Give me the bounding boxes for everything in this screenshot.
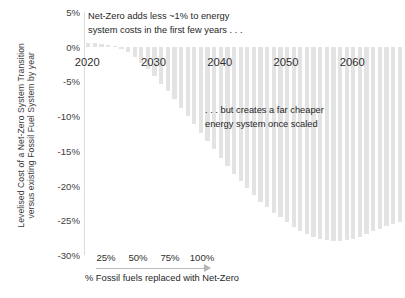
- secondary-axis-tick-label: 25%: [96, 252, 115, 263]
- y-axis-title-line-2: versus existing Fossil Fuel System by ye…: [27, 52, 36, 219]
- y-axis-tick-label: 5%: [50, 7, 80, 18]
- bar: [364, 47, 368, 234]
- bar: [378, 47, 382, 229]
- bar: [285, 47, 289, 223]
- y-axis-title: Levelised Cost of a Net-Zero System Tran…: [0, 0, 52, 270]
- chart-figure: Levelised Cost of a Net-Zero System Tran…: [0, 0, 405, 298]
- plot-area: [84, 12, 402, 255]
- bar: [311, 47, 315, 237]
- bar: [325, 47, 329, 241]
- bar: [371, 47, 375, 232]
- bar: [351, 47, 355, 239]
- right-arrow-icon: [204, 264, 211, 272]
- bar: [172, 47, 176, 100]
- x-axis-ticks: 20202030204020502060: [84, 56, 402, 72]
- secondary-axis: 25%50%75%100% % Fossil fuels replaced wi…: [84, 252, 314, 296]
- bar-series: [85, 12, 402, 255]
- secondary-axis-title: % Fossil fuels replaced with Net-Zero: [85, 273, 239, 283]
- y-axis-title-line-1: Levelised Cost of a Net-Zero System Tran…: [17, 43, 26, 228]
- y-axis-tick-label: -30%: [50, 250, 80, 261]
- bar: [126, 47, 130, 53]
- bar: [278, 47, 282, 218]
- bar: [398, 47, 402, 222]
- y-axis-tick-label: -10%: [50, 111, 80, 122]
- bar: [292, 47, 296, 227]
- bar: [338, 47, 342, 241]
- bar: [318, 47, 322, 239]
- top-annotation-line-1: Net-Zero adds less ~1% to energy: [88, 10, 242, 24]
- bar: [345, 47, 349, 241]
- mid-annotation: . . . but creates a far cheaper energy s…: [205, 104, 324, 131]
- bar: [331, 47, 335, 241]
- bar: [113, 46, 117, 47]
- bar: [305, 47, 309, 234]
- secondary-axis-line: [96, 268, 204, 269]
- bar: [298, 47, 302, 231]
- x-axis-tick-label: 2050: [274, 56, 299, 68]
- x-axis-tick-label: 2030: [141, 56, 166, 68]
- bar: [391, 47, 395, 224]
- bar: [384, 47, 388, 226]
- bar: [106, 45, 110, 47]
- top-annotation: Net-Zero adds less ~1% to energy system …: [88, 10, 242, 37]
- y-axis-tick-label: -25%: [50, 215, 80, 226]
- secondary-axis-tick-label: 75%: [160, 252, 179, 263]
- y-axis-tick-label: -5%: [50, 76, 80, 87]
- bar: [86, 43, 90, 47]
- y-axis-ticks: 5%0%-5%-10%-15%-20%-25%-30%: [50, 0, 80, 298]
- secondary-axis-ticks: 25%50%75%100%: [84, 252, 284, 267]
- bar: [358, 47, 362, 237]
- bar: [119, 47, 123, 49]
- mid-annotation-line-1: . . . but creates a far cheaper: [205, 104, 324, 118]
- y-axis-tick-label: 0%: [50, 41, 80, 52]
- x-axis-tick-label: 2040: [207, 56, 232, 68]
- y-axis-tick-label: -15%: [50, 145, 80, 156]
- secondary-axis-tick-label: 100%: [190, 252, 215, 263]
- x-axis-tick-label: 2060: [340, 56, 365, 68]
- bar: [99, 44, 103, 47]
- secondary-axis-tick-label: 50%: [128, 252, 147, 263]
- bar: [93, 43, 97, 46]
- x-axis-tick-label: 2020: [75, 56, 100, 68]
- y-axis-tick-label: -20%: [50, 180, 80, 191]
- mid-annotation-line-2: energy system once scaled: [205, 118, 324, 132]
- top-annotation-line-2: system costs in the first few years . . …: [88, 24, 242, 38]
